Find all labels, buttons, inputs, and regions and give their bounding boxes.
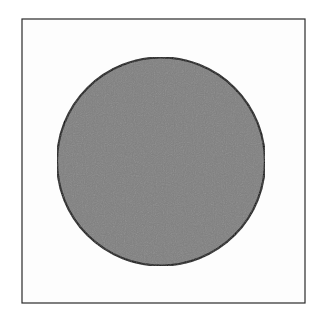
- figure-svg: [0, 0, 326, 320]
- figure-canvas: [0, 0, 326, 320]
- filled-circle: [57, 58, 265, 266]
